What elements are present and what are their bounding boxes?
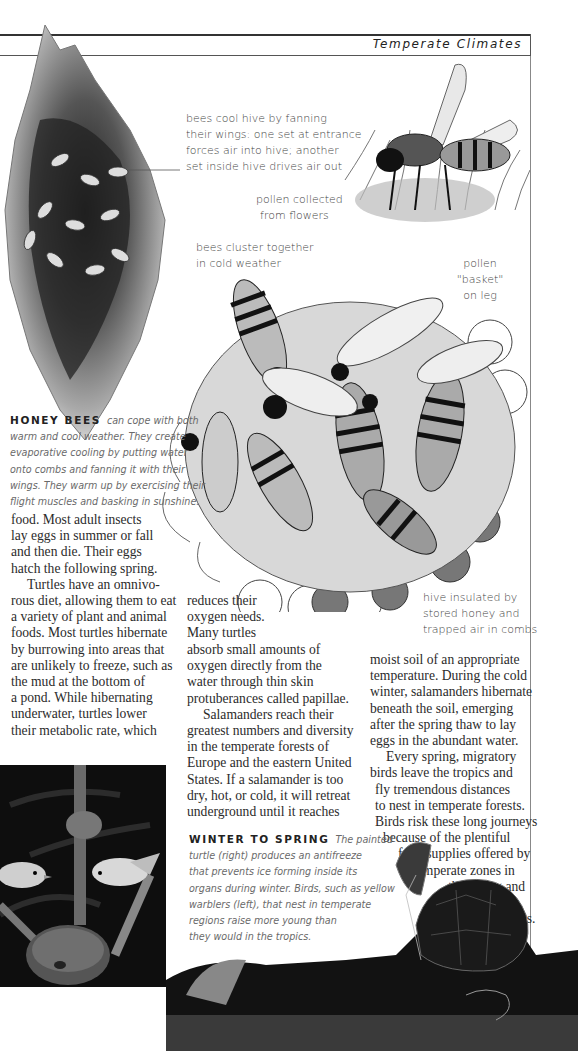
body-line: and then die. Their eggs (11, 544, 181, 560)
body-line: underground until it reaches (187, 804, 353, 820)
body-line: beneath the soil, emerging (370, 701, 530, 717)
body-line: Europe and the eastern United (187, 755, 353, 771)
body-line: underwater, turtles lower (11, 706, 181, 722)
label-pollen-collected: pollen collected from flowers (256, 192, 343, 224)
body-line: hatch the following spring. (11, 561, 181, 577)
yellow-warblers-nest-photo (0, 765, 166, 987)
body-line: oxygen needs. (187, 609, 265, 625)
label-hive-insulated: hive insulated by stored honey and trapp… (423, 590, 537, 638)
body-line: after the spring thaw to lay (370, 717, 530, 733)
body-line: Birds risk these long journeys (370, 814, 530, 830)
body-line: are unlikely to freeze, such as (11, 658, 181, 674)
body-line: a pond. While hibernating (11, 690, 181, 706)
caption-line: onto combs and fanning it with their (10, 462, 210, 478)
bee-on-flower-illustration (335, 60, 530, 230)
body-line: Salamanders reach their (187, 707, 353, 723)
body-column-2-top: reduces their oxygen needs. Many turtles (187, 593, 265, 642)
body-column-1: food. Most adult insects lay eggs in sum… (11, 512, 181, 739)
label-line: from flowers (256, 208, 329, 224)
body-line: lay eggs in summer or fall (11, 528, 181, 544)
label-line: trapped air in combs (423, 622, 537, 638)
bee-cluster-illustration (160, 272, 530, 612)
caption-line: evaporative cooling by putting water (10, 445, 210, 461)
body-line: winter, salamanders hibernate (370, 684, 530, 700)
label-cluster: bees cluster together in cold weather (196, 240, 314, 272)
label-line: pollen (455, 256, 505, 272)
body-line: Many turtles (187, 625, 265, 641)
body-line: the mud at the bottom of (11, 674, 181, 690)
label-line: pollen collected (256, 192, 343, 208)
body-line: their metabolic rate, which (11, 723, 181, 739)
body-line: Turtles have an omnivo- (11, 577, 181, 593)
body-line: to nest in temperate forests. (370, 798, 530, 814)
label-line: in cold weather (196, 256, 314, 272)
running-head: Temperate Climates (373, 37, 522, 51)
body-line: temperature. During the cold (370, 668, 530, 684)
body-line: greatest numbers and diversity (187, 723, 353, 739)
body-line: moist soil of an appropriate (370, 652, 530, 668)
caption-line: wings. They warm up by exercising their (10, 478, 210, 494)
body-line: dry, hot, or cold, it will retreat (187, 788, 353, 804)
body-column-2: absorb small amounts of oxygen directly … (187, 642, 353, 820)
painted-turtle-photo (166, 835, 578, 1051)
body-line: absorb small amounts of (187, 642, 353, 658)
body-line: eggs in the abundant water. (370, 733, 530, 749)
body-line: oxygen directly from the (187, 658, 353, 674)
caption-line: warm and cool weather. They create (10, 429, 210, 445)
body-line: water through thin skin (187, 674, 353, 690)
body-line: a variety of plant and animal (11, 609, 181, 625)
body-line: fly tremendous distances (370, 782, 530, 798)
bee-hive-illustration (0, 20, 180, 450)
body-line: food. Most adult insects (11, 512, 181, 528)
body-line: in the temperate forests of (187, 739, 353, 755)
caption-honey-bees: HONEY BEES can cope with both warm and c… (10, 412, 210, 510)
caption-line: flight muscles and basking in sunshine. (10, 494, 210, 510)
body-line: birds leave the tropics and (370, 765, 530, 781)
body-line: rous diet, allowing them to eat (11, 593, 181, 609)
caption-text: can cope with both (107, 415, 199, 426)
caption-line: HONEY BEES can cope with both (10, 412, 210, 429)
body-line: by burrowing into areas that (11, 642, 181, 658)
body-line: protuberances called papillae. (187, 691, 353, 707)
header-rule-right (530, 34, 531, 56)
body-line: States. If a salamander is too (187, 772, 353, 788)
label-line: stored honey and (423, 606, 537, 622)
label-line: hive insulated by (423, 590, 537, 606)
body-line: Every spring, migratory (370, 749, 530, 765)
body-line: foods. Most turtles hibernate (11, 625, 181, 641)
caption-lead: HONEY BEES (10, 414, 101, 426)
body-line: reduces their (187, 593, 265, 609)
label-line: bees cluster together (196, 240, 314, 256)
